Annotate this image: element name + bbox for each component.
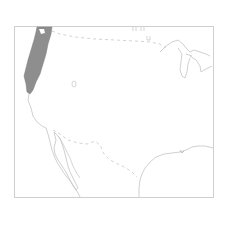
great-lakes-outline xyxy=(160,40,212,78)
map-canvas xyxy=(0,0,230,242)
range-map: Western United States and adjacent Mexic… xyxy=(0,0,230,242)
lake-marker xyxy=(147,36,150,40)
baja-peninsula xyxy=(54,132,78,190)
gulf-coast xyxy=(139,146,213,197)
us-canada-border xyxy=(52,31,166,48)
pacific-coastline xyxy=(28,94,80,197)
us-mexico-border xyxy=(53,130,137,177)
shaded-range-region xyxy=(24,27,52,94)
northern-border-markers xyxy=(133,27,144,31)
isolated-site-marker xyxy=(72,81,76,87)
